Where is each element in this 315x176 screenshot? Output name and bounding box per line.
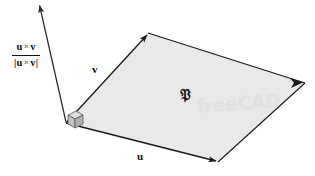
unit-normal-fraction-label: u×v |u×v| bbox=[12, 42, 40, 68]
unit-normal-vector-arrow bbox=[40, 6, 66, 123]
vector-u-label: u bbox=[137, 151, 143, 162]
denominator-abs-v: v| bbox=[30, 57, 38, 68]
numerator-v: v bbox=[30, 41, 36, 52]
numerator-u: u bbox=[17, 41, 23, 52]
fraction-numerator: u×v bbox=[12, 42, 40, 55]
fraction-denominator: |u×v| bbox=[12, 55, 40, 69]
vector-v-label: v bbox=[92, 64, 98, 75]
denominator-abs-u: |u bbox=[14, 57, 23, 68]
plane-region-label: 𝔓 bbox=[180, 88, 191, 103]
vector-cross-product-figure: freeCAD v u 𝔓 u×v |u×v| bbox=[0, 0, 315, 176]
figure-canvas bbox=[0, 0, 315, 176]
right-angle-cube-icon bbox=[68, 111, 83, 128]
